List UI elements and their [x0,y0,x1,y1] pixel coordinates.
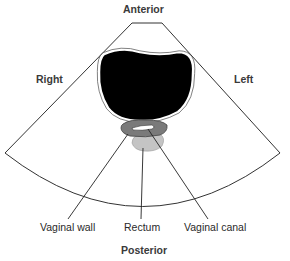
label-vaginal-canal: Vaginal canal [184,222,246,233]
label-right: Right [36,74,63,85]
label-anterior: Anterior [123,4,164,15]
callout-line-vaginal-wall [68,134,128,219]
label-posterior: Posterior [121,245,167,256]
label-rectum: Rectum [124,222,160,233]
label-vaginal-wall: Vaginal wall [40,222,95,233]
callout-line-rectum [141,148,143,219]
bladder [99,49,193,121]
label-left: Left [234,74,253,85]
